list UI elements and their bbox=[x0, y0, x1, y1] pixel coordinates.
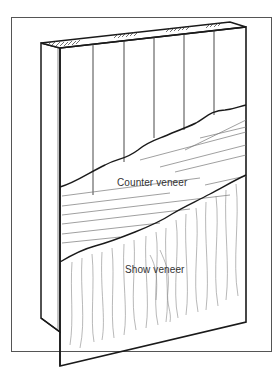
board-top-edge bbox=[41, 22, 246, 48]
board-side-face bbox=[41, 43, 60, 332]
core-strips bbox=[93, 30, 214, 195]
counter-veneer-label: Counter veneer bbox=[117, 177, 187, 188]
show-veneer-label: Show veneer bbox=[125, 264, 184, 275]
show-veneer-edge bbox=[60, 175, 246, 262]
counter-veneer-edge bbox=[60, 105, 246, 187]
